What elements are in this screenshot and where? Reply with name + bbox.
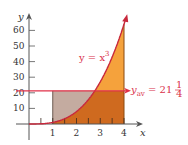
y-tick-label: 50 (13, 41, 25, 51)
x-tick-label: 1 (50, 128, 56, 138)
shaded-regions (53, 24, 124, 124)
x-tick-label: 3 (97, 128, 103, 138)
average-label: yav = 21 (130, 84, 172, 98)
curve-label: y = x3 (78, 50, 110, 63)
y-tick-label: 20 (13, 88, 25, 98)
x-tick-label: 2 (74, 128, 80, 138)
y-tick-label: 30 (13, 72, 25, 82)
y-axis-label: y (17, 11, 24, 22)
y-tick-label: 10 (13, 103, 25, 113)
chart: x y 1234102030405060 y = x3 yav = 21 1 4 (0, 0, 188, 145)
average-fraction-denominator: 4 (176, 88, 182, 99)
curve-arrow-icon (122, 14, 128, 22)
x-tick-label: 4 (121, 128, 127, 138)
y-tick-label: 60 (13, 25, 25, 35)
x-axis-label: x (140, 127, 146, 138)
y-tick-label: 40 (13, 57, 25, 67)
